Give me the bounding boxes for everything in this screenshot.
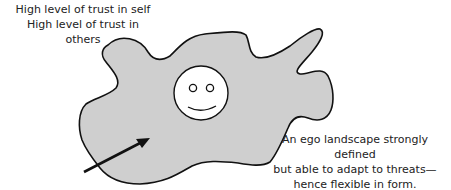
caption-line-3: hence flexible in form. bbox=[262, 177, 448, 190]
trust-in-others-text: High level of trust in others bbox=[8, 17, 158, 47]
caption-line-2: but able to adapt to threats— bbox=[262, 162, 448, 177]
ego-landscape-caption: An ego landscape strongly defined but ab… bbox=[262, 132, 448, 190]
caption-line-1: An ego landscape strongly defined bbox=[262, 132, 448, 162]
trust-levels-label: High level of trust in self High level o… bbox=[8, 2, 158, 47]
trust-in-self-text: High level of trust in self bbox=[8, 2, 158, 17]
smiley-face-icon bbox=[174, 66, 228, 120]
